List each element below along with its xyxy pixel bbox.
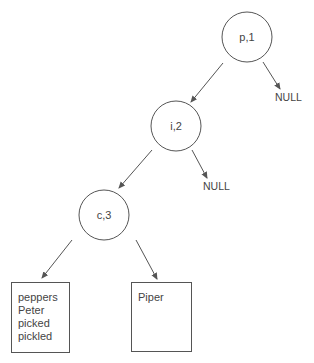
arrow-c3-to-box-1 [42,240,72,278]
arrow-p1-to-i2 [191,63,223,102]
null-2-label: NULL [203,180,230,192]
leaf-word: Piper [138,291,164,303]
tree-node-i2: i,2 [151,101,201,151]
leaf-word: picked [18,317,50,329]
null-labels: NULLNULL [203,91,302,192]
arrow-c3-to-box-2 [136,240,157,279]
tree-node-c3: c,3 [79,190,129,240]
tree-node-p1: p,1 [222,12,272,62]
leaf-box-1: peppersPeterpickedpickled [12,283,70,353]
node-label: c,3 [97,209,112,221]
trie-diagram: p,1i,2c,3 NULLNULL peppersPeterpickedpic… [0,0,314,363]
leaf-word: Peter [18,304,45,316]
nodes: p,1i,2c,3 [79,12,272,240]
arrow-i2-to-null-2 [192,150,207,178]
arrow-i2-to-c3 [119,150,152,188]
leaf-boxes: peppersPeterpickedpickledPiper [12,283,192,353]
node-label: p,1 [239,31,254,43]
node-label: i,2 [170,120,182,132]
leaf-box-2: Piper [132,283,192,352]
edges [42,62,280,279]
arrow-p1-to-null-1 [263,62,280,89]
leaf-word: pickled [18,330,52,342]
null-1-label: NULL [275,91,302,103]
leaf-word: peppers [18,291,58,303]
